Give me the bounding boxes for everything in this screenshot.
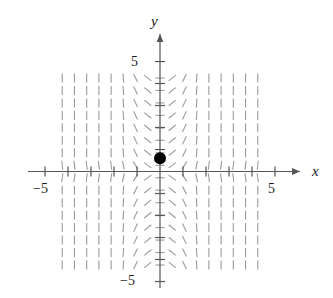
y-tick-label-neg-5: −5 <box>120 274 135 288</box>
x-axis-label: x <box>312 164 319 179</box>
slope-field-figure: x y −5 5 5 −5 <box>0 0 333 298</box>
x-tick-label-neg-5: −5 <box>33 182 48 196</box>
x-tick-label-pos-5: 5 <box>268 182 275 196</box>
y-tick-label-pos-5: 5 <box>131 55 138 69</box>
plot-canvas <box>0 0 333 298</box>
initial-condition-point <box>154 152 166 164</box>
data-points-group <box>154 152 166 164</box>
y-axis-label: y <box>151 14 158 29</box>
